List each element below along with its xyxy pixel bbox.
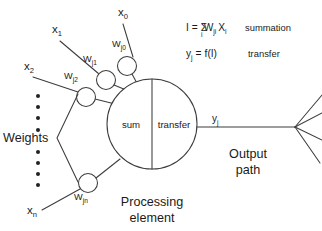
input-label-xn: xn (27, 204, 37, 219)
formula-transfer: yj=f(I) transfer (186, 48, 280, 62)
ellipsis-dot (36, 105, 40, 109)
output-branch-1 (295, 95, 322, 127)
output-path-caption-line2: path (236, 163, 261, 177)
output-branch-4 (295, 127, 320, 163)
weight-label-wj2: Wj2 (64, 71, 78, 84)
weights-bracket-label: Weights (3, 131, 48, 145)
ellipsis-dot (36, 116, 40, 120)
ellipsis-dot (36, 150, 40, 154)
weights-bracket (57, 94, 78, 182)
weight-node-wj2 (77, 88, 96, 107)
weight-label-wj0: Wj0 (112, 39, 126, 52)
output-branch-2 (295, 113, 322, 127)
formula-summation-expression: I=ΣiWjiXi (186, 22, 227, 38)
output-path-caption-line1: Output (229, 147, 267, 161)
ellipsis-dot (36, 94, 40, 98)
neuron-diagram-canvas: x0 x1 x2 xn Wj0 Wj1 Wj2 Wjn (0, 0, 322, 231)
formula-summation-annotation: summation (245, 22, 291, 33)
formula-transfer-annotation: transfer (248, 48, 280, 59)
input-line-x0 (123, 24, 133, 57)
processing-element-caption-line2: element (130, 211, 175, 225)
input-label-x0: x0 (118, 6, 128, 21)
weight-label-wjn: Wjn (74, 192, 88, 205)
neuron-diagram: x0 x1 x2 xn Wj0 Wj1 Wj2 Wjn (0, 0, 322, 231)
formula-summation: I=ΣiWjiXi summation (186, 22, 291, 38)
output-signal-label: yj (212, 113, 219, 127)
weight-node-wj1 (97, 71, 116, 90)
formula-transfer-expression: yj=f(I) (186, 48, 217, 62)
ellipsis-dot (36, 161, 40, 165)
ellipsis-dot (36, 183, 40, 187)
connector-wjn (96, 159, 120, 178)
processing-element-caption-line1: Processing (121, 195, 183, 209)
ellipsis-dot (36, 172, 40, 176)
input-label-x1: x1 (52, 23, 62, 38)
weight-label-wj1: Wj1 (83, 54, 97, 67)
input-line-x1 (60, 41, 99, 74)
weight-node-wj0 (118, 57, 137, 76)
sum-label: sum (122, 119, 140, 130)
weight-node-wjn (79, 174, 98, 193)
transfer-label: transfer (158, 119, 191, 130)
input-label-x2: x2 (24, 60, 34, 75)
